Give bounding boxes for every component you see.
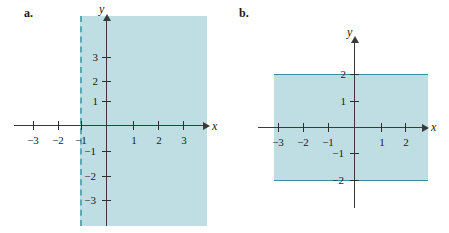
panel-a-x-tick-label: −2 <box>48 134 68 146</box>
panel-a-x-tick <box>58 121 59 130</box>
panel-b-x-axis <box>258 127 424 128</box>
panel-b-x-tick <box>278 123 279 132</box>
panel-a-y-tick-label: 2 <box>78 75 98 87</box>
panel-b-x-axis-arrow-icon <box>422 124 429 132</box>
panel-b-x-tick <box>303 123 304 132</box>
panel-a-y-axis-label: y <box>99 2 104 17</box>
panel-b-y-tick-label: −1 <box>324 147 344 159</box>
panel-a-shaded-region <box>80 16 207 226</box>
panel-b-y-tick <box>350 101 359 102</box>
figure-two-graph-panels: a. x y −3 −2 −1 1 2 3 3 2 1 −1 −2 −3 <box>0 0 449 233</box>
panel-b-x-axis-label: x <box>431 120 436 135</box>
panel-a-x-tick-label: 2 <box>149 134 169 146</box>
panel-b-y-tick <box>350 153 359 154</box>
panel-a-x-axis-arrow-icon <box>203 122 210 130</box>
panel-a-y-tick <box>102 176 111 177</box>
panel-a-y-tick <box>102 81 111 82</box>
panel-a-x-axis-label: x <box>212 119 217 134</box>
panel-b-y-tick-label: 2 <box>326 68 346 80</box>
panel-a-y-tick <box>102 101 111 102</box>
panel-a: a. x y −3 −2 −1 1 2 3 3 2 1 −1 −2 −3 <box>0 0 230 233</box>
panel-b-label: b. <box>239 6 249 21</box>
panel-b-y-tick-label: 1 <box>326 95 346 107</box>
panel-a-x-axis <box>14 125 204 126</box>
panel-a-x-tick <box>158 121 159 130</box>
panel-a-x-tick <box>133 121 134 130</box>
panel-b-x-tick-label: 1 <box>372 136 392 148</box>
panel-a-y-tick-label: 1 <box>78 95 98 107</box>
panel-b: b. x y −3 −2 −1 1 2 2 1 −1 −2 <box>230 0 449 233</box>
panel-a-x-tick-label: 3 <box>174 134 194 146</box>
panel-a-y-tick-label: −2 <box>76 170 96 182</box>
panel-a-x-tick-label: −3 <box>23 134 43 146</box>
panel-b-x-tick-label: 2 <box>396 136 416 148</box>
panel-b-x-tick <box>405 123 406 132</box>
panel-b-x-tick-label: −3 <box>268 136 288 148</box>
panel-a-y-tick-label: −3 <box>76 194 96 206</box>
panel-b-x-tick <box>328 123 329 132</box>
panel-a-x-tick <box>183 121 184 130</box>
panel-b-x-tick-label: −2 <box>293 136 313 148</box>
panel-b-y-tick-label: −2 <box>324 174 344 186</box>
panel-a-x-tick-label: 1 <box>124 134 144 146</box>
panel-b-y-tick <box>350 180 359 181</box>
panel-a-y-tick <box>102 57 111 58</box>
panel-b-y-tick <box>350 74 359 75</box>
panel-a-y-tick-label: −1 <box>76 145 96 157</box>
panel-a-y-tick <box>102 151 111 152</box>
panel-a-y-axis <box>106 20 107 226</box>
panel-b-y-axis <box>354 42 355 208</box>
panel-a-y-tick-label: 3 <box>78 51 98 63</box>
panel-b-y-axis-label: y <box>347 25 352 40</box>
panel-a-y-tick <box>102 200 111 201</box>
panel-a-x-tick <box>33 121 34 130</box>
panel-a-label: a. <box>24 6 33 21</box>
panel-b-x-tick <box>381 123 382 132</box>
panel-a-x-tick <box>81 121 82 130</box>
